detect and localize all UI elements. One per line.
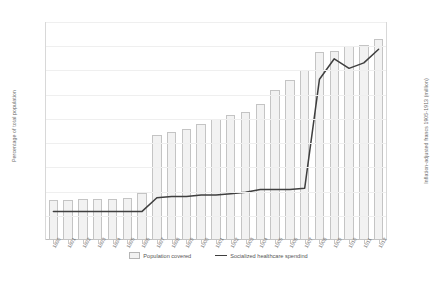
legend-bar-swatch-icon (129, 252, 140, 259)
gridline-9 (46, 22, 386, 23)
gridline-6 (46, 95, 386, 96)
bar-slot (209, 22, 224, 240)
bar (211, 119, 220, 240)
bar-slot (120, 22, 135, 240)
bar-slot (61, 22, 76, 240)
bar (196, 124, 205, 240)
bar (93, 199, 102, 240)
bar-slot (342, 22, 357, 240)
legend-label-socialized-healthcare-spendind: Socialized healthcare spendind (230, 253, 307, 259)
bar-slot (238, 22, 253, 240)
bar (123, 198, 132, 240)
bar-slot (297, 22, 312, 240)
legend-item-socialized-healthcare-spendind: Socialized healthcare spendind (215, 253, 307, 259)
bar (78, 199, 87, 240)
bar (167, 132, 176, 240)
bar-slot (46, 22, 61, 240)
bar-slot (164, 22, 179, 240)
bar (182, 129, 191, 240)
bar-slot (76, 22, 91, 240)
bar-slot (327, 22, 342, 240)
bar-series-population-covered (46, 22, 386, 240)
bar-slot (268, 22, 283, 240)
bar (374, 39, 383, 240)
chart-legend: Population covered Socialized healthcare… (0, 252, 437, 259)
bar-slot (253, 22, 268, 240)
bar-slot (371, 22, 386, 240)
legend-item-population-covered: Population covered (129, 252, 191, 259)
bar (256, 104, 265, 240)
y-axis-right-title: Inflation-adjusted francs 1905-1913 (mil… (423, 66, 429, 196)
y-axis-right-line (386, 22, 387, 240)
legend-line-icon (215, 255, 227, 256)
chart-container: Percentage of total population Inflation… (0, 0, 437, 296)
bar-slot (135, 22, 150, 240)
gridline-4 (46, 143, 386, 144)
bar-slot (179, 22, 194, 240)
bar (300, 70, 309, 240)
bar-slot (283, 22, 298, 240)
bar-slot (105, 22, 120, 240)
gridline-7 (46, 70, 386, 71)
bar (63, 200, 72, 240)
bar-slot (194, 22, 209, 240)
gridline-5 (46, 119, 386, 120)
bar (226, 115, 235, 240)
gridline-8 (46, 46, 386, 47)
y-axis-left-title: Percentage of total population (11, 66, 17, 186)
bar (152, 135, 161, 240)
bar (108, 199, 117, 240)
bar (241, 112, 250, 240)
bar-slot (356, 22, 371, 240)
bar-slot (223, 22, 238, 240)
bar-slot (90, 22, 105, 240)
bar-slot (312, 22, 327, 240)
gridline-1 (46, 216, 386, 217)
legend-label-population-covered: Population covered (143, 253, 191, 259)
bar (270, 90, 279, 240)
gridline-3 (46, 167, 386, 168)
bar (315, 52, 324, 240)
bar (330, 51, 339, 240)
gridline-2 (46, 192, 386, 193)
plot-area: 0%2%4%6%8%10%12%14%16%18% 02040608010012… (46, 22, 386, 240)
bar-slot (149, 22, 164, 240)
bar (49, 200, 58, 240)
